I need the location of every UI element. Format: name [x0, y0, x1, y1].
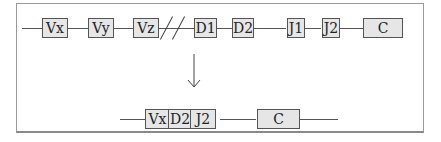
- top-line-start: [22, 28, 42, 29]
- top-line-vy-vz: [114, 28, 134, 29]
- top-line-j1-j2: [305, 28, 321, 29]
- bottom-line-start: [120, 119, 145, 120]
- segment-vx: Vx: [42, 18, 68, 38]
- segment-j1: J1: [287, 18, 305, 38]
- top-line-d2-j1: [254, 28, 286, 29]
- segment-j2: J2: [322, 18, 340, 38]
- top-line-vx-vy: [68, 28, 88, 29]
- bottom-segment-vx: Vx: [145, 109, 169, 129]
- bottom-segment-d2: D2: [168, 109, 191, 129]
- bottom-segment-j2: J2: [190, 109, 216, 129]
- segment-d1: D1: [194, 18, 217, 38]
- segment-vz: Vz: [133, 18, 159, 38]
- top-line-j2-c: [340, 28, 363, 29]
- bottom-line-j2-c: [220, 119, 256, 120]
- segment-c: C: [363, 18, 403, 38]
- segment-d2: D2: [232, 18, 254, 38]
- down-arrow-icon: [184, 54, 204, 94]
- bottom-line-end: [300, 119, 338, 120]
- bottom-segment-c: C: [257, 109, 300, 129]
- segment-vy: Vy: [88, 18, 114, 38]
- top-line-d1-d2: [216, 28, 232, 29]
